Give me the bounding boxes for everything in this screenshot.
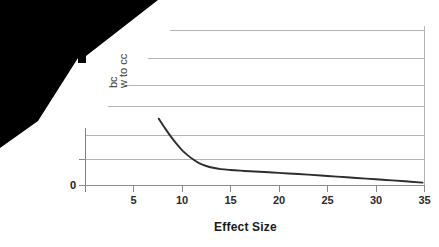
chart-screenshot: 5 10 15 20 25 30 35 0 bc w to cc Effect … [0, 0, 439, 247]
x-tick-label-25: 25 [313, 194, 343, 207]
x-tick-label-20: 20 [264, 194, 294, 207]
y-tick-label-0: 0 [56, 179, 76, 192]
x-tick-label-35: 35 [410, 194, 439, 207]
y-axis-title-fragment-2: w to cc [117, 54, 129, 88]
x-tick-label-30: 30 [361, 194, 391, 207]
x-axis-title: Effect Size [0, 220, 439, 234]
chart-canvas [0, 0, 439, 247]
x-tick-label-5: 5 [119, 194, 149, 207]
x-tick-label-10: 10 [167, 194, 197, 207]
x-tick-label-15: 15 [216, 194, 246, 207]
data-series-line [159, 119, 423, 183]
x-axis-title-text: Effect Size [214, 220, 277, 234]
x-axis-ticks [134, 185, 425, 192]
plot-area: 5 10 15 20 25 30 35 0 bc w to cc Effect … [0, 0, 439, 247]
gridlines [85, 31, 425, 160]
